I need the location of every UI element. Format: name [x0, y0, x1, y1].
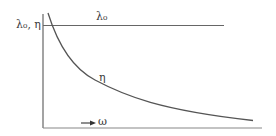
- y-axis-label: λ₀, η: [16, 19, 41, 30]
- eta-label: η: [99, 72, 106, 83]
- omega-arrow-head: [90, 121, 96, 126]
- omega-label: ω: [98, 116, 107, 127]
- eta-curve: [48, 13, 253, 121]
- lambda0-label: λ₀: [96, 11, 107, 22]
- diagram-canvas: [0, 0, 276, 136]
